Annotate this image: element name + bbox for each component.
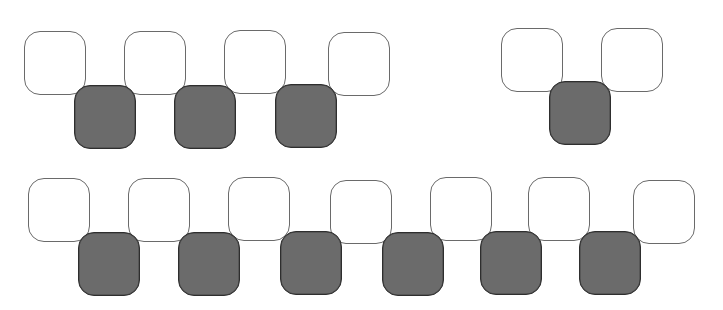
light-tile bbox=[228, 177, 290, 241]
light-tile bbox=[328, 32, 390, 96]
light-tile bbox=[128, 178, 190, 242]
dark-tile bbox=[579, 231, 641, 295]
light-tile bbox=[28, 178, 90, 242]
light-tile bbox=[330, 180, 392, 244]
light-tile bbox=[601, 28, 663, 92]
dark-tile bbox=[275, 84, 337, 148]
light-tile bbox=[124, 31, 186, 95]
dark-tile bbox=[178, 232, 240, 296]
light-tile bbox=[528, 177, 590, 241]
light-tile bbox=[633, 180, 695, 244]
light-tile bbox=[224, 30, 286, 94]
dark-tile bbox=[382, 232, 444, 296]
dark-tile bbox=[280, 231, 342, 295]
tile-diagram bbox=[0, 0, 723, 310]
light-tile bbox=[24, 31, 86, 95]
dark-tile bbox=[78, 232, 140, 296]
light-tile bbox=[430, 177, 492, 241]
dark-tile bbox=[174, 85, 236, 149]
light-tile bbox=[501, 28, 563, 92]
dark-tile bbox=[480, 231, 542, 295]
dark-tile bbox=[549, 81, 611, 145]
dark-tile bbox=[74, 85, 136, 149]
